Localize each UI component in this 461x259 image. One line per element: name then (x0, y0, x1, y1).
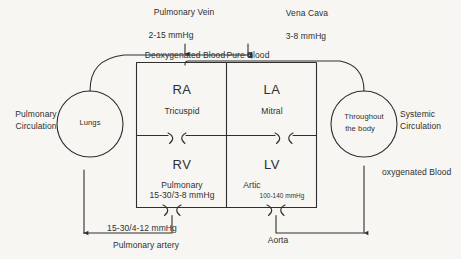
pure-blood-label: Pure Blood (216, 51, 280, 61)
chamber-pressure-lv: 100-140 mmHg (250, 192, 314, 199)
body-circle-label-line1: Throughout (334, 113, 394, 122)
chamber-name-la: LA (231, 83, 313, 98)
pulmonary-circulation-label-line1: Pulmonary (5, 110, 67, 120)
body-circle-label-line2: the body (332, 125, 388, 134)
diagram-canvas: Pulmonary Vein 2-15 mmHg Vena Cava 3-8 m… (0, 0, 461, 259)
chamber-valve-la: Mitral (231, 107, 313, 117)
oxygenated-blood-label: oxygenated Blood (382, 168, 451, 178)
systemic-circulation-label-line2: Circulation (400, 122, 441, 132)
circulation-diagram-graphics (0, 0, 461, 259)
tricuspid-valve-icon-2 (182, 133, 186, 144)
aorta-path (276, 216, 364, 234)
chamber-name-lv: LV (231, 158, 313, 173)
pulmonic-valve-icon-2 (177, 205, 181, 216)
aorta-label: Aorta (248, 236, 308, 246)
lungs-circle-label: Lungs (62, 119, 118, 128)
pulmonary-artery-label: Pulmonary artery (94, 241, 198, 251)
pulmonary-vein-label: Pulmonary Vein (124, 8, 244, 18)
pulmonary-circulation-label-line2: Circulation (5, 122, 67, 132)
tricuspid-valve-icon (168, 133, 173, 144)
mitral-valve-icon (275, 133, 280, 144)
vena-cava-label: Vena Cava (262, 9, 352, 19)
pulmonic-valve-icon (163, 205, 168, 216)
chamber-name-rv: RV (141, 158, 223, 173)
chamber-valve-lv: Artic (226, 181, 278, 191)
chamber-name-ra: RA (141, 83, 223, 98)
aortic-valve-icon (267, 205, 272, 216)
pulmonary-artery-pressure: 15-30/4-12 mmHg (88, 224, 196, 234)
chamber-pressure-rv: 15-30/3-8 mmHg (136, 191, 228, 201)
vena-cava-pressure: 3-8 mmHg (264, 32, 348, 42)
chamber-valve-ra: Tricuspid (141, 107, 223, 117)
mitral-valve-icon-2 (289, 133, 293, 144)
pulmonary-vein-pressure: 2-15 mmHg (126, 31, 216, 41)
aortic-valve-icon-2 (281, 205, 285, 216)
systemic-circulation-label-line1: Systemic (400, 110, 435, 120)
